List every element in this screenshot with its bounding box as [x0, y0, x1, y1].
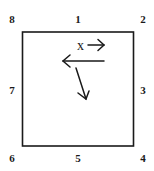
label-3: 3 [140, 84, 146, 96]
label-5: 5 [75, 152, 81, 164]
label-4: 4 [140, 152, 146, 164]
label-7: 7 [9, 84, 15, 96]
label-1: 1 [75, 13, 81, 25]
x-label: x [77, 38, 84, 53]
small-right-arrow-icon [88, 40, 104, 51]
label-6: 6 [9, 152, 15, 164]
left-arrow-icon [63, 55, 104, 67]
label-8: 8 [9, 13, 15, 25]
down-diagonal-arrow-icon [76, 68, 89, 99]
direction-diagram: 8 1 2 7 3 6 5 4 x [0, 0, 154, 171]
label-2: 2 [140, 13, 146, 25]
